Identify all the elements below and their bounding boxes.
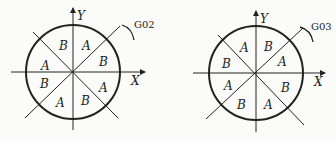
- sector-label: A: [40, 59, 50, 73]
- x-axis-label: X: [313, 75, 323, 89]
- sector-label: A: [277, 55, 287, 69]
- sector-label: A: [223, 79, 233, 93]
- sector-label: B: [221, 57, 231, 71]
- g-code-label: G03: [311, 21, 332, 32]
- sector-label: A: [263, 98, 273, 112]
- sector-label: B: [98, 55, 108, 69]
- x-axis-label: X: [130, 74, 140, 88]
- g02-diagram: Y X G02 B A B A B A B A: [11, 8, 155, 130]
- sector-label: A: [55, 96, 65, 110]
- sector-label: A: [81, 39, 91, 53]
- diagonal-135: [33, 32, 118, 118]
- clockwise-arrow-icon: [122, 25, 134, 40]
- sector-label: B: [263, 40, 273, 54]
- sector-label: B: [80, 94, 90, 108]
- diagram-canvas: Y X G02 B A B A B A B A Y X G03 A B A B …: [0, 0, 336, 141]
- y-axis-label: Y: [77, 9, 86, 23]
- y-axis-label: Y: [260, 12, 269, 26]
- g03-diagram: Y X G03 A B A B A B A B: [193, 11, 332, 132]
- sector-label: A: [98, 81, 108, 95]
- sector-label: B: [58, 39, 68, 53]
- g-code-label: G02: [134, 19, 155, 30]
- sector-label: B: [280, 81, 290, 95]
- sector-label: B: [236, 98, 246, 112]
- sector-label: B: [39, 77, 49, 91]
- sector-label: A: [239, 41, 249, 55]
